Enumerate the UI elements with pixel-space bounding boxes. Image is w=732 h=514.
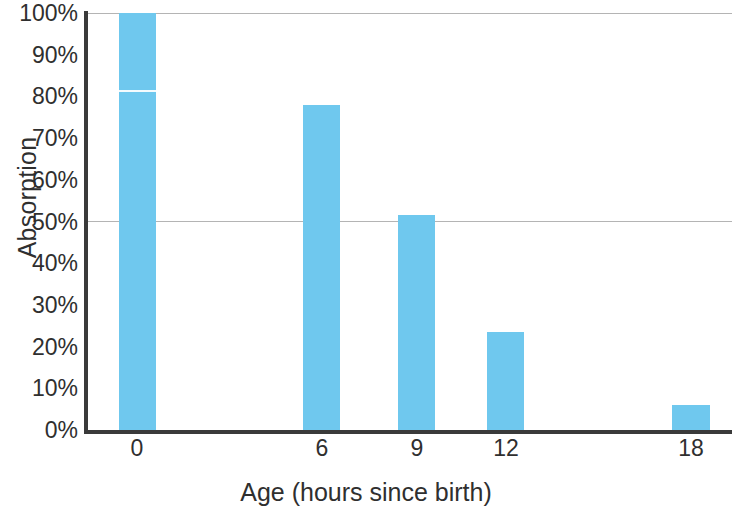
- bar: [119, 13, 156, 430]
- bar: [303, 105, 340, 430]
- y-tick-label: 10%: [32, 377, 78, 400]
- y-tick-label: 30%: [32, 294, 78, 317]
- y-tick-label: 60%: [32, 169, 78, 192]
- y-tick-label: 70%: [32, 127, 78, 150]
- x-tick-label: 6: [316, 437, 329, 460]
- y-axis-tick-labels: 100%90%80%70%60%50%40%30%20%10%0%: [0, 0, 84, 514]
- x-axis-title: Age (hours since birth): [0, 478, 732, 507]
- x-axis-line: [84, 430, 732, 434]
- x-axis-tick-labels: 0691218: [88, 437, 732, 471]
- bar: [398, 215, 435, 430]
- x-tick-label: 9: [411, 437, 424, 460]
- y-tick-label: 90%: [32, 44, 78, 67]
- y-tick-label: 0%: [45, 419, 78, 442]
- x-tick-label: 18: [678, 437, 704, 460]
- plot-area: [88, 13, 732, 430]
- x-tick-label: 0: [131, 437, 144, 460]
- bar-chart: Absorption 100%90%80%70%60%50%40%30%20%1…: [0, 0, 732, 514]
- scan-artifact-line: [119, 90, 156, 92]
- bar: [672, 405, 710, 430]
- y-tick-label: 40%: [32, 252, 78, 275]
- bars-layer: [88, 13, 732, 430]
- y-tick-label: 20%: [32, 336, 78, 359]
- y-tick-label: 50%: [32, 211, 78, 234]
- y-tick-label: 80%: [32, 85, 78, 108]
- x-tick-label: 12: [493, 437, 519, 460]
- bar: [487, 332, 524, 430]
- y-tick-label: 100%: [19, 2, 78, 25]
